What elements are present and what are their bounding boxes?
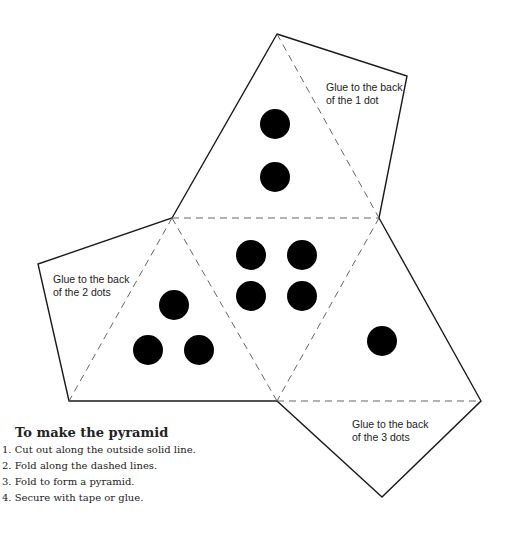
dot (287, 281, 317, 311)
dot (159, 290, 189, 320)
instruction-step: 2. Fold along the dashed lines. (2, 458, 196, 474)
face-left-3-dots (133, 290, 214, 365)
instructions: To make the pyramid 1. Cut out along the… (2, 425, 196, 506)
dot (367, 326, 397, 356)
glue-tab-label-bottom: Glue to the back of the 3 dots (352, 418, 428, 444)
instruction-step: 3. Fold to form a pyramid. (2, 474, 196, 490)
face-top-2-dots (260, 109, 290, 192)
dot (184, 335, 214, 365)
dot (133, 335, 163, 365)
glue-label-line1: Glue to the back (352, 418, 428, 431)
face-center-4-dots (236, 240, 317, 311)
glue-label-line2: of the 3 dots (352, 431, 428, 444)
instructions-title: To make the pyramid (15, 425, 196, 441)
glue-tab-label-left: Glue to the back of the 2 dots (53, 273, 129, 299)
fold-lines (69, 34, 481, 401)
dot (287, 240, 317, 270)
glue-label-line2: of the 2 dots (53, 286, 129, 299)
glue-label-line1: Glue to the back (326, 81, 402, 94)
glue-label-line2: of the 1 dot (326, 94, 402, 107)
instructions-steps: 1. Cut out along the outside solid line.… (2, 442, 196, 506)
glue-tab-label-top: Glue to the back of the 1 dot (326, 81, 402, 107)
dot (236, 281, 266, 311)
dot (236, 240, 266, 270)
dot (260, 162, 290, 192)
face-right-1-dot (367, 326, 397, 356)
instruction-step: 4. Secure with tape or glue. (2, 490, 196, 506)
glue-label-line1: Glue to the back (53, 273, 129, 286)
dot (260, 109, 290, 139)
instruction-step: 1. Cut out along the outside solid line. (2, 442, 196, 458)
